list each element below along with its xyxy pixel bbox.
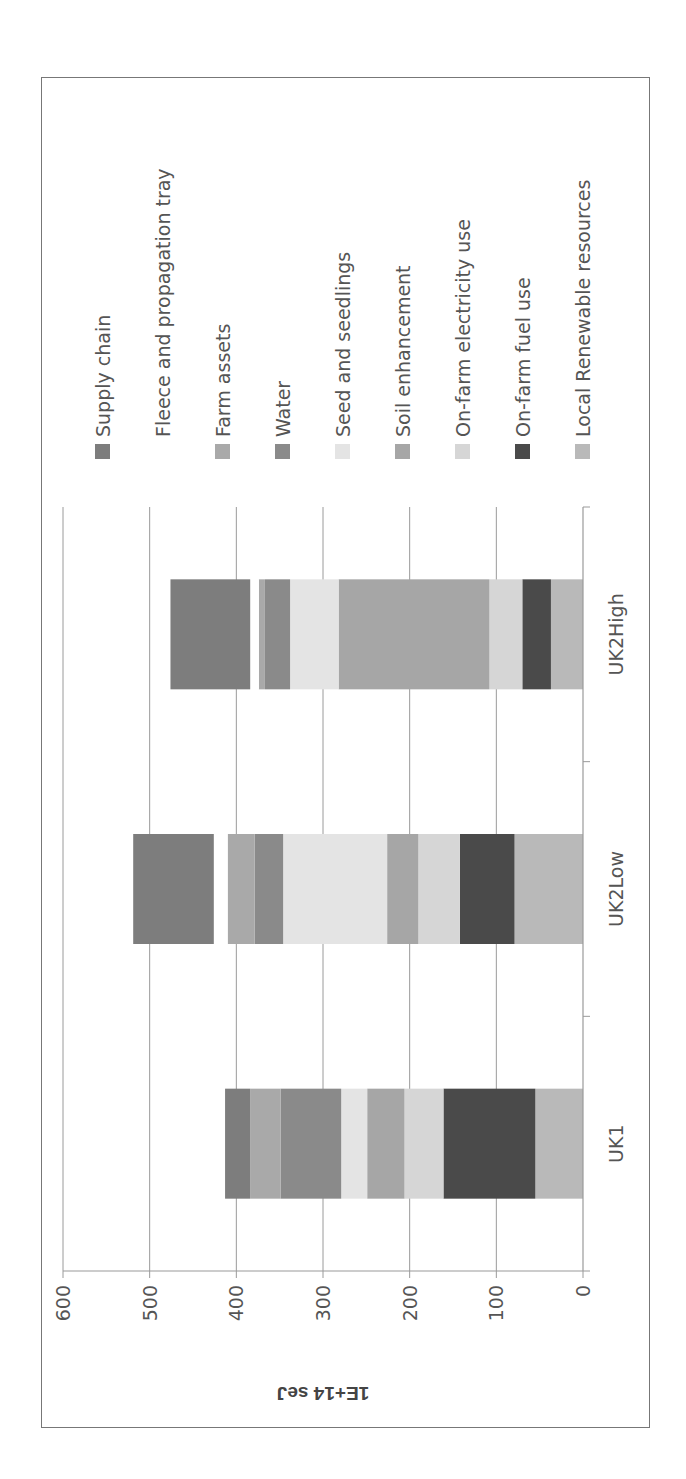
bar-segment [255, 834, 284, 944]
legend-label: Supply chain [92, 315, 114, 437]
bar-segment [515, 834, 583, 944]
bar-segment [489, 579, 522, 689]
legend: Supply chainFleece and propagation trayF… [92, 168, 594, 459]
chart-frame: 01002003004005006001E+14 seJUK1UK2LowUK2… [41, 77, 650, 1428]
legend-label: On-farm electricity use [452, 219, 474, 437]
legend-label: Farm assets [212, 324, 234, 437]
bar-segment [214, 834, 228, 944]
bar-segment [339, 579, 490, 689]
bar-segment [404, 1089, 443, 1199]
bar-segment [283, 834, 387, 944]
legend-label: Soil enhancement [392, 265, 414, 437]
y-tick-label: 400 [225, 1285, 247, 1321]
bar-segment [259, 579, 265, 689]
bar-segment [460, 834, 515, 944]
legend-label: Fleece and propagation tray [152, 168, 174, 437]
bar-segment [551, 579, 583, 689]
legend-label: On-farm fuel use [512, 277, 534, 437]
bar-segment [170, 579, 250, 689]
y-tick-label: 100 [485, 1285, 507, 1321]
bar-segment [290, 579, 339, 689]
y-tick-label: 600 [52, 1285, 74, 1321]
bar-segment [281, 1089, 342, 1199]
y-tick-label: 500 [139, 1285, 161, 1321]
legend-swatch [155, 444, 170, 459]
stacked-bar-chart: 01002003004005006001E+14 seJUK1UK2LowUK2… [42, 79, 648, 1427]
bar-segment [133, 834, 214, 944]
bar-segment [225, 1089, 250, 1199]
y-axis-title: 1E+14 seJ [277, 1383, 369, 1404]
category-label: UK2High [605, 593, 627, 675]
y-tick-label: 200 [399, 1285, 421, 1321]
legend-swatch [335, 444, 350, 459]
bar-segment [228, 834, 255, 944]
legend-swatch [395, 444, 410, 459]
bar-segment [418, 834, 460, 944]
y-tick-label: 300 [312, 1285, 334, 1321]
legend-label: Seed and seedlings [332, 252, 354, 437]
bar-segment [367, 1089, 404, 1199]
legend-swatch [455, 444, 470, 459]
y-tick-label: 0 [572, 1285, 594, 1297]
bar-segment [250, 579, 259, 689]
legend-swatch [515, 444, 530, 459]
bar-segment [265, 579, 290, 689]
category-label: UK1 [605, 1124, 627, 1162]
bar-segment [522, 579, 551, 689]
bar-segment [535, 1089, 583, 1199]
category-label: UK2Low [605, 851, 627, 927]
legend-label: Local Renewable resources [572, 180, 594, 437]
legend-swatch [95, 444, 110, 459]
bar-segment [250, 1089, 280, 1199]
legend-label: Water [272, 381, 294, 437]
bar-segment [443, 1089, 535, 1199]
legend-swatch [275, 444, 290, 459]
bar-segment [387, 834, 418, 944]
legend-swatch [215, 444, 230, 459]
legend-swatch [575, 444, 590, 459]
bar-segment [341, 1089, 367, 1199]
bars [133, 579, 583, 1198]
